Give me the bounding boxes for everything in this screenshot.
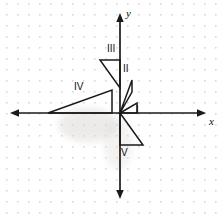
triangle-label-I: I: [136, 105, 139, 115]
triangle-label-II: II: [123, 64, 129, 74]
triangle-label-III: III: [107, 44, 115, 54]
y-axis-arrow-up-icon: [116, 13, 123, 22]
triangle-label-IV: IV: [74, 82, 83, 92]
triangle-IV: [48, 90, 112, 113]
triangles-group: [48, 60, 143, 145]
axes-group: [10, 13, 206, 199]
y-axis-label: y: [126, 8, 131, 19]
y-axis-arrow-down-icon: [116, 190, 123, 199]
x-axis-arrow-right-icon: [197, 109, 206, 116]
triangle-V: [120, 113, 143, 145]
triangle-II: [120, 80, 132, 113]
x-axis-arrow-left-icon: [10, 109, 19, 116]
x-axis-label: x: [209, 116, 214, 127]
triangle-III: [100, 60, 120, 88]
triangle-label-V: V: [121, 148, 128, 158]
triangles-and-axes: [0, 0, 223, 218]
coordinate-plane-figure: III II IV I V x y: [0, 0, 223, 218]
